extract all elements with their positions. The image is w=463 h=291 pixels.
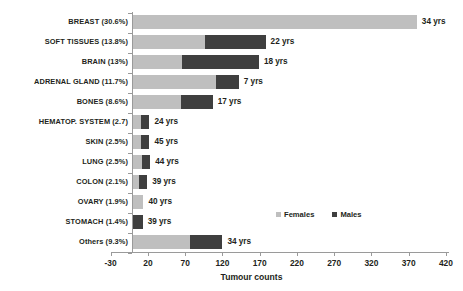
legend-label-females: Females [284,210,314,219]
x-axis-tick [334,252,335,256]
category-label: SKIN (2.5%) [4,132,128,152]
stacked-bar: 39 yrs [133,215,171,229]
stacked-bar: 17 yrs [133,95,241,109]
x-axis-tick-label: 270 [314,258,354,268]
bar-row: Others (9.3%)34 yrs [0,232,463,252]
bar-row: STOMACH (1.4%)39 yrs [0,212,463,232]
bar-segment-males [141,135,149,149]
plot-area: BREAST (30.6%)34 yrsSOFT TISSUES (13.8%)… [0,0,463,291]
bar-value-label: 40 yrs [143,195,172,209]
stacked-bar: 44 yrs [133,155,179,169]
y-axis-tick [128,73,132,74]
x-axis-line [111,252,449,253]
bar-value-label: 22 yrs [266,35,295,49]
x-axis-tick-label: 370 [389,258,429,268]
bar-segment-females [133,195,143,209]
x-axis-tick-label: 220 [277,258,317,268]
category-label: OVARY (1.9%) [4,192,128,212]
y-axis-tick [128,33,132,34]
category-label: BRAIN (13%) [4,52,128,72]
stacked-bar: 34 yrs [133,235,251,249]
category-label: Others (9.3%) [4,232,128,252]
x-axis-tick-label: 320 [351,258,391,268]
stacked-bar: 22 yrs [133,35,294,49]
category-label: LUNG (2.5%) [4,152,128,172]
bar-segment-females [133,75,216,89]
bar-value-label: 39 yrs [143,215,172,229]
stacked-bar: 34 yrs [133,15,446,29]
bar-row: SKIN (2.5%)45 yrs [0,132,463,152]
bar-value-label: 45 yrs [149,135,178,149]
x-axis-tick-label: 20 [128,258,168,268]
bar-segment-males [205,35,265,49]
x-axis-tick-label: -30 [91,258,131,268]
y-axis-tick [128,93,132,94]
bar-value-label: 34 yrs [417,15,446,29]
x-axis-tick [148,252,149,256]
stacked-bar: 24 yrs [133,115,178,129]
tumour-counts-bar-chart: BREAST (30.6%)34 yrsSOFT TISSUES (13.8%)… [0,0,463,291]
bar-segment-females [133,235,190,249]
stacked-bar: 39 yrs [133,175,176,189]
bar-segment-males [142,155,150,169]
bar-row: OVARY (1.9%)40 yrs [0,192,463,212]
bar-segment-males [133,215,143,229]
bar-segment-females [133,155,142,169]
legend-item-females: Females [276,210,314,219]
bar-segment-males [181,95,213,109]
legend-swatch-males-icon [332,212,337,217]
y-axis-tick [128,133,132,134]
bar-value-label: 44 yrs [150,155,179,169]
bar-segment-males [190,235,222,249]
bar-row: BREAST (30.6%)34 yrs [0,12,463,32]
stacked-bar: 7 yrs [133,75,263,89]
x-axis-tick [446,252,447,256]
bar-segment-males [139,175,147,189]
bar-segment-females [133,15,417,29]
x-axis-tick-label: 120 [202,258,242,268]
x-axis-tick [260,252,261,256]
stacked-bar: 45 yrs [133,135,178,149]
bar-segment-females [133,115,141,129]
bar-segment-females [133,35,205,49]
bar-value-label: 18 yrs [259,55,288,69]
category-label: ADRENAL GLAND (11.7%) [4,72,128,92]
legend-label-males: Males [340,210,361,219]
bar-segment-females [133,135,141,149]
bar-segment-males [141,115,149,129]
x-axis-tick-label: 70 [165,258,205,268]
category-label: SOFT TISSUES (13.8%) [4,32,128,52]
x-axis-tick [111,252,112,256]
category-label: BREAST (30.6%) [4,12,128,32]
bar-row: COLON (2.1%)39 yrs [0,172,463,192]
stacked-bar: 40 yrs [133,195,172,209]
bar-row: HEMATOP. SYSTEM (2.7)24 yrs [0,112,463,132]
bar-segment-females [133,95,181,109]
x-axis-tick-label: 420 [426,258,463,268]
bar-row: SOFT TISSUES (13.8%)22 yrs [0,32,463,52]
category-label: HEMATOP. SYSTEM (2.7) [4,112,128,132]
x-axis-tick [297,252,298,256]
chart-legend: Females Males [276,210,362,219]
bar-value-label: 7 yrs [239,75,263,89]
y-axis-tick [128,233,132,234]
bar-value-label: 39 yrs [147,175,176,189]
legend-swatch-females-icon [276,212,281,217]
x-axis-title: Tumour counts [0,272,463,282]
y-axis-tick [128,53,132,54]
bar-row: BRAIN (13%)18 yrs [0,52,463,72]
y-axis-tick [128,113,132,114]
x-axis-tick [371,252,372,256]
bar-segment-males [216,75,239,89]
bar-segment-males [182,55,259,69]
stacked-bar: 18 yrs [133,55,288,69]
y-axis-tick [128,213,132,214]
y-axis-tick [128,253,132,254]
bar-value-label: 17 yrs [213,95,242,109]
bar-row: LUNG (2.5%)44 yrs [0,152,463,172]
x-axis-tick [185,252,186,256]
category-label: STOMACH (1.4%) [4,212,128,232]
bar-value-label: 24 yrs [149,115,178,129]
bar-segment-females [133,55,182,69]
bar-row: ADRENAL GLAND (11.7%)7 yrs [0,72,463,92]
